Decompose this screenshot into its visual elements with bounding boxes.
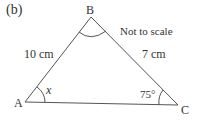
triangle-diagram: (b) Not to scale B A C 10 cm 7 cm x 75°: [0, 0, 199, 136]
angle-a-label: x: [45, 83, 52, 97]
not-to-scale-note: Not to scale: [120, 25, 173, 37]
angle-c-label: 75°: [140, 88, 155, 100]
vertex-a-label: A: [14, 96, 23, 110]
part-label: (b): [6, 2, 23, 18]
side-ab-length: 10 cm: [24, 47, 54, 61]
angle-a-arc: [37, 87, 45, 102]
side-bc-length: 7 cm: [142, 47, 166, 61]
angle-b-arc: [79, 31, 106, 37]
vertex-b-label: B: [86, 3, 94, 17]
vertex-c-label: C: [181, 103, 189, 117]
angle-c-arc: [159, 90, 163, 105]
